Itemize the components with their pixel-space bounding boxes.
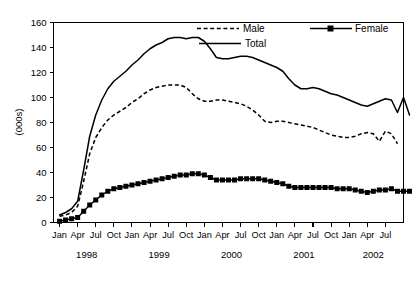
data-point-female bbox=[280, 181, 285, 186]
x-tick-label: Jan bbox=[342, 230, 357, 240]
x-tick-label: Jan bbox=[52, 230, 67, 240]
data-point-female bbox=[160, 176, 165, 181]
data-point-female bbox=[129, 183, 134, 188]
data-point-female bbox=[178, 173, 183, 178]
y-tick-label: 160 bbox=[31, 17, 47, 28]
x-tick-label: Apr bbox=[360, 230, 374, 240]
data-point-female bbox=[208, 175, 213, 180]
x-axis-year-label: 2000 bbox=[221, 249, 242, 260]
data-point-female bbox=[286, 184, 291, 189]
legend-label-male: Male bbox=[243, 23, 265, 34]
x-tick-label: Oct bbox=[252, 230, 267, 240]
data-point-female bbox=[274, 180, 279, 185]
y-axis-title: (000s) bbox=[13, 109, 24, 136]
x-tick-label: Jul bbox=[235, 230, 247, 240]
data-point-female bbox=[220, 178, 225, 183]
data-point-female bbox=[238, 176, 243, 181]
data-point-female bbox=[304, 185, 309, 190]
data-point-female bbox=[341, 186, 346, 191]
x-tick-label: Oct bbox=[179, 230, 194, 240]
data-point-female bbox=[105, 189, 110, 194]
x-tick-label: Apr bbox=[288, 230, 302, 240]
data-point-female bbox=[383, 188, 388, 193]
data-point-female bbox=[166, 175, 171, 180]
data-point-female bbox=[184, 173, 189, 178]
data-point-female bbox=[389, 186, 394, 191]
data-point-female bbox=[371, 189, 376, 194]
data-point-female bbox=[93, 198, 98, 203]
x-tick-label: Jul bbox=[162, 230, 174, 240]
data-point-female bbox=[353, 188, 358, 193]
data-point-female bbox=[81, 209, 86, 214]
x-tick-label: Jul bbox=[380, 230, 392, 240]
x-tick-label: Apr bbox=[215, 230, 229, 240]
y-tick-label: 80 bbox=[36, 117, 47, 128]
data-point-female bbox=[117, 185, 122, 190]
data-point-female bbox=[256, 176, 261, 181]
data-point-female bbox=[135, 181, 140, 186]
data-point-female bbox=[87, 203, 92, 208]
x-tick-label: Oct bbox=[324, 230, 339, 240]
legend-label-female: Female bbox=[355, 23, 389, 34]
y-tick-label: 140 bbox=[31, 42, 47, 53]
x-axis-year-label: 1999 bbox=[149, 249, 170, 260]
data-point-female bbox=[268, 179, 273, 184]
y-tick-label: 60 bbox=[36, 142, 47, 153]
data-point-female bbox=[244, 176, 249, 181]
data-point-female bbox=[232, 178, 237, 183]
data-point-female bbox=[226, 178, 231, 183]
data-point-female bbox=[317, 185, 322, 190]
data-point-female bbox=[190, 171, 195, 176]
data-point-female bbox=[407, 189, 412, 194]
data-point-female bbox=[202, 173, 207, 178]
data-point-female bbox=[395, 189, 400, 194]
data-point-female bbox=[154, 178, 159, 183]
line-chart: 020406080100120140160 (000s) JanAprJulOc… bbox=[0, 0, 420, 282]
y-tick-label: 100 bbox=[31, 92, 47, 103]
data-point-female bbox=[377, 188, 382, 193]
legend-label-total: Total bbox=[245, 38, 266, 49]
data-point-female bbox=[323, 185, 328, 190]
y-tick-label: 120 bbox=[31, 67, 47, 78]
data-point-female bbox=[142, 180, 147, 185]
x-tick-label: Jul bbox=[307, 230, 319, 240]
y-tick-label: 40 bbox=[36, 167, 47, 178]
x-tick-label: Apr bbox=[70, 230, 84, 240]
y-tick-label: 20 bbox=[36, 192, 47, 203]
x-tick-label: Jan bbox=[125, 230, 140, 240]
data-point-female bbox=[172, 174, 177, 179]
data-point-female bbox=[359, 189, 364, 194]
chart-container: 020406080100120140160 (000s) JanAprJulOc… bbox=[0, 0, 420, 282]
data-point-female bbox=[214, 178, 219, 183]
data-point-female bbox=[298, 185, 303, 190]
x-axis-year-label: 1998 bbox=[76, 249, 97, 260]
data-point-female bbox=[262, 178, 267, 183]
data-point-female bbox=[292, 185, 297, 190]
data-point-female bbox=[75, 215, 80, 220]
data-point-female bbox=[57, 219, 62, 224]
data-point-female bbox=[365, 190, 370, 195]
data-point-female bbox=[401, 189, 406, 194]
x-tick-label: Jan bbox=[197, 230, 212, 240]
x-tick-label: Jul bbox=[90, 230, 102, 240]
x-tick-label: Oct bbox=[107, 230, 122, 240]
x-axis-year-label: 2001 bbox=[293, 249, 314, 260]
y-tick-label: 0 bbox=[41, 217, 46, 228]
data-point-female bbox=[99, 193, 104, 198]
data-point-female bbox=[123, 184, 128, 189]
data-point-female bbox=[347, 186, 352, 191]
x-tick-label: Apr bbox=[143, 230, 157, 240]
data-point-female bbox=[196, 171, 201, 176]
legend-swatch-female-marker bbox=[328, 26, 334, 32]
data-point-female bbox=[250, 176, 255, 181]
x-axis-year-label: 2002 bbox=[363, 249, 384, 260]
data-point-female bbox=[310, 185, 315, 190]
data-point-female bbox=[69, 216, 74, 221]
data-point-female bbox=[63, 218, 68, 223]
x-tick-label: Jan bbox=[269, 230, 284, 240]
data-point-female bbox=[335, 186, 340, 191]
data-point-female bbox=[329, 185, 334, 190]
chart-background bbox=[0, 0, 420, 282]
data-point-female bbox=[148, 179, 153, 184]
data-point-female bbox=[111, 186, 116, 191]
